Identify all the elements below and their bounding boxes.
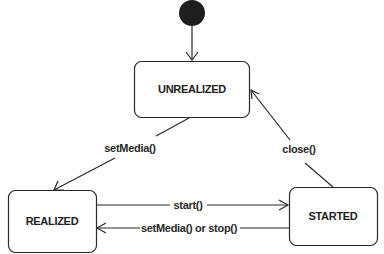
state-started-label: STARTED [308,210,357,222]
transition-setmedia-label: setMedia() [104,142,156,154]
initial-state-dot [179,0,205,26]
state-started: STARTED [290,188,378,246]
state-diagram: UNREALIZED REALIZED STARTED setMedia() c… [0,0,384,254]
transition-start-label: start() [173,199,203,211]
initial-transition-arrow [186,26,198,60]
state-realized-label: REALIZED [26,215,79,227]
transition-close-label: close() [282,143,316,155]
transition-setmedia-arrow [54,118,189,190]
state-unrealized: UNREALIZED [135,62,250,118]
state-realized: REALIZED [9,191,97,253]
state-unrealized-label: UNREALIZED [158,83,226,95]
transition-setmedia-or-stop-label: setMedia() or stop() [141,222,238,234]
transition-close-arrow [251,90,333,187]
